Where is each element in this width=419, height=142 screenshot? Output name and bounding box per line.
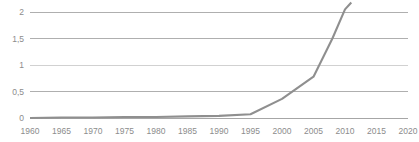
y-tick-label-3: 1,5 (12, 34, 24, 44)
y-tick-label-2: 1 (19, 60, 24, 70)
x-tick-label-6: 1990 (210, 126, 229, 136)
y-tick-label-4: 2 (19, 7, 24, 17)
y-tick-label-0: 0 (19, 113, 24, 123)
x-axis-tick-labels: 1960196519701975198019851990199520002005… (21, 126, 418, 136)
x-tick-label-5: 1985 (178, 126, 197, 136)
x-tick-label-12: 2020 (399, 126, 418, 136)
y-axis-tick-labels: 00,511,52 (12, 7, 24, 123)
y-tick-label-1: 0,5 (12, 87, 24, 97)
x-tick-label-2: 1970 (84, 126, 103, 136)
x-tick-label-1: 1965 (52, 126, 71, 136)
x-tick-label-3: 1975 (115, 126, 134, 136)
x-tick-label-8: 2000 (273, 126, 292, 136)
x-tick-label-4: 1980 (147, 126, 166, 136)
x-tick-label-0: 1960 (21, 126, 40, 136)
chart-canvas: 00,511,52 196019651970197519801985199019… (0, 0, 419, 142)
x-tick-label-11: 2015 (367, 126, 386, 136)
series-1-line (30, 2, 351, 118)
line-chart: 00,511,52 196019651970197519801985199019… (0, 0, 419, 142)
x-tick-label-10: 2010 (336, 126, 355, 136)
gridlines (30, 12, 408, 118)
x-tick-label-7: 1995 (241, 126, 260, 136)
x-tick-label-9: 2005 (304, 126, 323, 136)
series-group (30, 2, 351, 118)
